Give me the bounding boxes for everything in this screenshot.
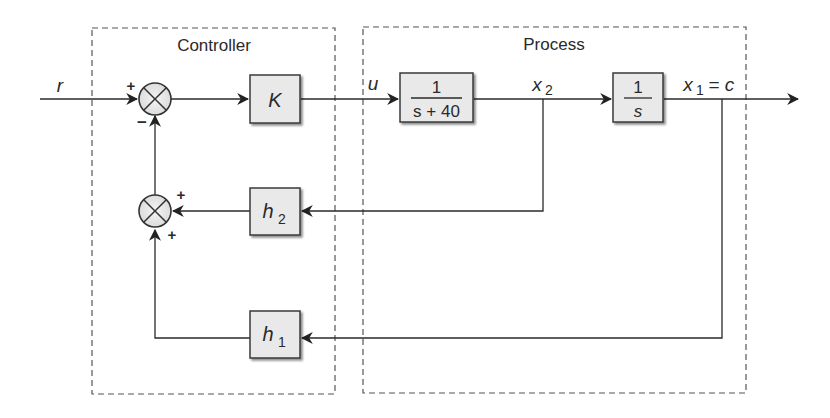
controller-label: Controller: [177, 36, 251, 55]
x1-feedback-line: [302, 99, 722, 338]
plant-block-2: 1 s: [613, 73, 663, 122]
h1-label: h: [262, 323, 273, 345]
feedback-block-h1: h 1: [250, 311, 300, 358]
x1-signal-label: x: [682, 74, 694, 95]
h1-subscript: 1: [278, 334, 286, 350]
sum1-minus-sign: −: [137, 113, 147, 132]
summing-junction-2: [139, 195, 171, 227]
plant2-denominator: s: [634, 102, 643, 121]
process-label: Process: [523, 35, 584, 54]
h2-subscript: 2: [278, 211, 286, 227]
sum1-plus-sign: +: [127, 77, 136, 94]
plant1-numerator: 1: [432, 78, 441, 97]
h2-label: h: [262, 200, 273, 222]
plant2-numerator: 1: [633, 78, 642, 97]
reference-signal-label: r: [57, 75, 64, 96]
summing-junction-1: [139, 83, 171, 115]
x2-signal-label: x: [531, 74, 543, 95]
x2-signal-subscript: 2: [545, 82, 553, 98]
output-equation-label: = c: [703, 74, 735, 95]
sum2-plus-right-sign: +: [177, 186, 186, 203]
plant-block-1: 1 s + 40: [400, 73, 473, 122]
gain-label: K: [268, 89, 283, 111]
gain-block-k: K: [250, 75, 300, 123]
block-diagram: Controller Process + − + + K 1 s + 40: [0, 0, 830, 418]
h1-output-line: [155, 230, 250, 338]
plant1-denominator: s + 40: [413, 102, 460, 121]
control-signal-label: u: [368, 73, 379, 94]
feedback-block-h2: h 2: [250, 188, 300, 235]
sum2-plus-bottom-sign: +: [168, 226, 177, 243]
